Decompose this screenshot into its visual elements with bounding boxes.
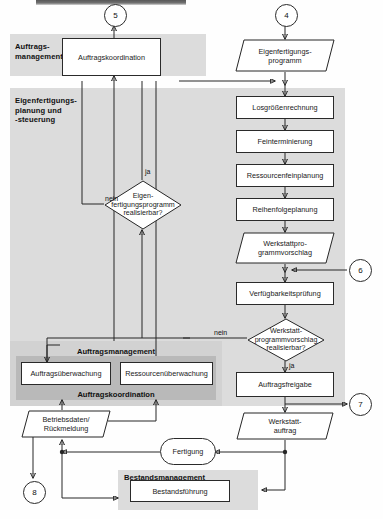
node-auftragsueberwachung[interactable]: Auftragsüberwachung bbox=[21, 362, 111, 385]
node-eigenfertigungsprogramm-label: Eigenfertigungs- programm bbox=[235, 39, 335, 72]
node-decision-eigenfertigungsprogramm[interactable]: Eigen- fertigungsprogramm realisierbar? bbox=[104, 180, 182, 230]
edge-label-eigen-ja: ja bbox=[145, 168, 150, 176]
edge-label-werkstatt-ja: ja bbox=[289, 362, 294, 370]
node-eigenfertigungsprogramm[interactable]: Eigenfertigungs- programm bbox=[235, 39, 335, 72]
edge-label-werkstatt-nein: nein bbox=[214, 329, 227, 337]
node-ressourcenueberwachung[interactable]: Ressourcenüberwachung bbox=[120, 362, 213, 385]
node-betriebsdaten-rueckmeldung-label: Betriebsdaten/ Rückmeldung bbox=[21, 410, 111, 438]
connector-8[interactable]: 8 bbox=[23, 481, 46, 504]
node-auftragskoordination[interactable]: Auftragskoordination bbox=[62, 38, 161, 76]
node-auftragsfreigabe[interactable]: Auftragsfreigabe bbox=[236, 372, 334, 397]
node-losgroessenrechnung[interactable]: Losgrößenrechnung bbox=[236, 96, 334, 119]
node-betriebsdaten-rueckmeldung[interactable]: Betriebsdaten/ Rückmeldung bbox=[21, 410, 111, 438]
node-decision-werkstattprogrammvorschlag-label: Werkstatt- programmvorschlag realisierba… bbox=[247, 318, 325, 362]
connector-5-label: 5 bbox=[113, 11, 117, 20]
edge-label-eigen-nein: nein bbox=[105, 195, 118, 203]
connector-4[interactable]: 4 bbox=[275, 4, 298, 27]
node-werkstattauftrag[interactable]: Werkstatt- auftrag bbox=[236, 412, 334, 440]
connector-6[interactable]: 6 bbox=[349, 259, 372, 282]
node-reihenfolgeplanung[interactable]: Reihenfolgeplanung bbox=[236, 198, 334, 221]
connector-4-label: 4 bbox=[284, 11, 288, 20]
node-werkstattauftrag-label: Werkstatt- auftrag bbox=[236, 412, 334, 440]
connector-7-label: 7 bbox=[358, 400, 362, 409]
flowchart-canvas: Auftrags- management Eigenfertigungs- pl… bbox=[0, 0, 383, 519]
node-verfuegbarkeitspruefung[interactable]: Verfügbarkeitsprüfung bbox=[236, 282, 334, 305]
connector-8-label: 8 bbox=[32, 488, 36, 497]
node-bestandsfuehrung[interactable]: Bestandsführung bbox=[130, 480, 230, 502]
node-decision-eigenfertigungsprogramm-label: Eigen- fertigungsprogramm realisierbar? bbox=[104, 180, 182, 230]
node-ressourcenfeinplanung[interactable]: Ressourcenfeinplanung bbox=[236, 164, 334, 187]
node-feinterminierung[interactable]: Feinterminierung bbox=[236, 130, 334, 153]
connector-5[interactable]: 5 bbox=[104, 4, 127, 27]
node-decision-werkstattprogrammvorschlag[interactable]: Werkstatt- programmvorschlag realisierba… bbox=[247, 318, 325, 362]
node-fertigung[interactable]: Fertigung bbox=[160, 438, 216, 465]
node-werkstattprogrammvorschlag[interactable]: Werkstattpro- grammvorschlag bbox=[235, 232, 335, 264]
connector-7[interactable]: 7 bbox=[349, 393, 372, 416]
node-werkstattprogrammvorschlag-label: Werkstattpro- grammvorschlag bbox=[235, 232, 335, 264]
connector-6-label: 6 bbox=[358, 266, 362, 275]
